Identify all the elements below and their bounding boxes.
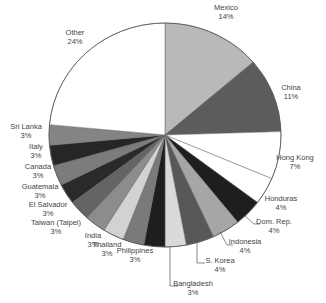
label-name: Philippines (117, 246, 154, 255)
label-percent: 3% (31, 151, 42, 160)
label-name: Other (66, 28, 85, 37)
label-percent: 4% (215, 265, 226, 274)
label-name: Dom. Rep. (256, 217, 292, 226)
label-percent: 3% (188, 288, 199, 297)
leader-line-s-korea (197, 240, 205, 263)
label-italy: Italy3% (29, 142, 43, 160)
label-name: India (85, 231, 102, 240)
label-mexico: Mexico14% (214, 3, 238, 21)
label-guatemala: Guatemala3% (22, 182, 60, 200)
pie-chart: Mexico14%China11%Hong Kong7%Honduras4%Do… (0, 0, 326, 303)
label-percent: 3% (51, 227, 62, 236)
label-name: Taiwan (Taipei) (31, 218, 82, 227)
label-name: Hong Kong (276, 153, 314, 162)
label-percent: 4% (240, 246, 251, 255)
label-bangladesh: Bangladesh3% (173, 279, 213, 297)
label-percent: 4% (276, 203, 287, 212)
label-name: S. Korea (205, 256, 235, 265)
label-percent: 3% (35, 191, 46, 200)
label-percent: 3% (33, 171, 44, 180)
label-percent: 3% (130, 255, 141, 264)
label-sri-lanka: Sri Lanka3% (10, 122, 43, 140)
label-name: Bangladesh (173, 279, 213, 288)
label-name: Canada (25, 162, 52, 171)
label-percent: 11% (284, 92, 299, 101)
label-name: China (281, 83, 301, 92)
label-percent: 3% (21, 131, 32, 140)
label-hong-kong: Hong Kong7% (276, 153, 314, 171)
label-s-korea: S. Korea4% (205, 256, 235, 274)
label-percent: 24% (67, 37, 82, 46)
label-percent: 7% (290, 162, 301, 171)
label-name: Indonesia (229, 237, 262, 246)
label-dom-rep: Dom. Rep.4% (256, 217, 292, 235)
label-canada: Canada3% (25, 162, 52, 180)
label-name: Mexico (214, 3, 238, 12)
label-other: Other24% (66, 28, 85, 46)
label-percent: 4% (269, 226, 280, 235)
label-name: Honduras (265, 194, 298, 203)
label-china: China11% (281, 83, 301, 101)
label-name: El Salvador (29, 200, 68, 209)
label-indonesia: Indonesia4% (229, 237, 262, 255)
label-percent: 3% (88, 240, 99, 249)
label-philippines: Philippines3% (117, 246, 154, 264)
label-percent: 14% (218, 12, 233, 21)
label-name: Guatemala (22, 182, 60, 191)
label-percent: 3% (102, 249, 113, 258)
label-honduras: Honduras4% (265, 194, 298, 212)
label-el-salvador: El Salvador3% (29, 200, 68, 218)
pie-slices (49, 23, 281, 247)
label-percent: 3% (43, 209, 54, 218)
label-name: Sri Lanka (10, 122, 43, 131)
label-taiwan-taipei: Taiwan (Taipei)3% (31, 218, 82, 236)
label-name: Italy (29, 142, 43, 151)
